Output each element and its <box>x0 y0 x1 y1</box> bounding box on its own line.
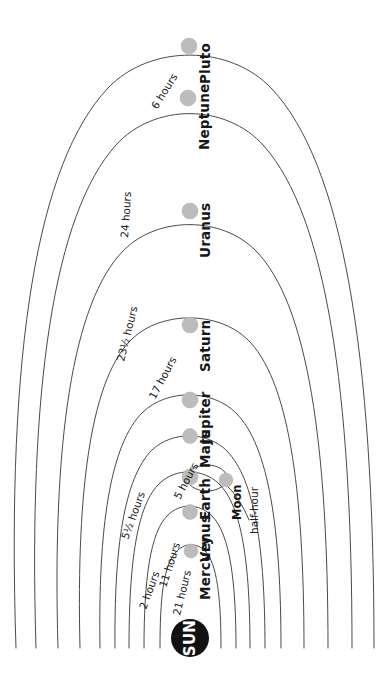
rotation-label-moon: half-hour <box>248 486 260 534</box>
planet-label-moon: Moon <box>230 485 244 520</box>
rotation-label-mercury: 21 hours <box>170 569 193 617</box>
sun-label: SUN <box>181 620 199 656</box>
planet-dot-jupiter <box>182 392 198 408</box>
planet-label-earth: Earth <box>197 478 213 520</box>
planet-label-jupiter: Jupiter <box>197 391 213 445</box>
rotation-label-uranus: 23½ hours <box>114 305 139 363</box>
orbit-arc-neptune <box>35 114 352 648</box>
planet-dot-venus <box>183 505 198 520</box>
planet-labels: Mercury Venus Earth Mars Jupiter Saturn … <box>196 43 244 600</box>
planet-label-neptune: Neptune <box>196 84 212 150</box>
planet-label-uranus: Uranus <box>197 203 213 258</box>
planet-dot-pluto <box>181 38 197 54</box>
rotation-label-jupiter: 5½ hours <box>119 490 147 541</box>
planet-dot-mercury <box>184 544 198 558</box>
rotation-label-neptune: 24 hours <box>118 191 133 238</box>
rotation-label-earth: 2 hours <box>137 569 162 610</box>
planet-dot-mars <box>183 429 198 444</box>
planet-label-venus: Venus <box>197 515 213 562</box>
rotation-label-pluto: 6 hours <box>149 71 180 111</box>
orbit-arcs <box>14 55 374 648</box>
planet-dot-saturn <box>182 317 198 333</box>
solar-system-diagram: SUN Mercury Venus Earth Mars Jupiter Sat… <box>0 0 388 694</box>
planet-label-pluto: Pluto <box>197 43 213 84</box>
sun-body: SUN <box>171 619 209 657</box>
planet-dot-neptune <box>180 90 196 106</box>
planet-label-saturn: Saturn <box>197 320 213 372</box>
rotation-period-labels: 21 hours 11 hours 2 hours 5 hours 5½ hou… <box>114 71 260 616</box>
rotation-label-saturn: 17 hours <box>146 354 178 400</box>
planet-dot-uranus <box>182 203 198 219</box>
solar-system-canvas: SUN Mercury Venus Earth Mars Jupiter Sat… <box>0 0 388 694</box>
orbit-arc-pluto <box>14 55 374 648</box>
